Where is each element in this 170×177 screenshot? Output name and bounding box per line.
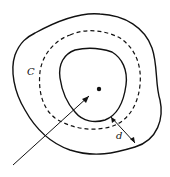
label-d: d xyxy=(116,130,122,141)
center-point xyxy=(97,87,101,91)
incident-arrow xyxy=(13,96,89,165)
diagram: C d xyxy=(0,0,170,177)
dashed-curve-c xyxy=(40,31,141,129)
outer-boundary xyxy=(13,14,161,154)
inner-region xyxy=(60,48,127,121)
label-c: C xyxy=(27,66,35,77)
